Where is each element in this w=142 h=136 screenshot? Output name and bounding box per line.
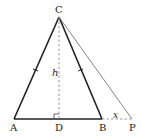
label-x: x <box>113 110 118 120</box>
label-c: C <box>55 4 63 15</box>
label-d: D <box>55 122 63 133</box>
label-h: h <box>52 67 58 78</box>
triangle-diagram: C A D B P h x <box>0 0 142 136</box>
label-p: P <box>129 122 136 133</box>
label-b: B <box>99 122 106 133</box>
label-a: A <box>9 122 18 133</box>
